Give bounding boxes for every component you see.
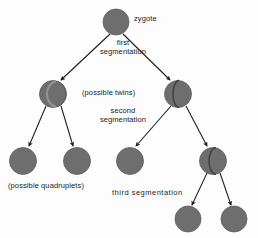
label-possible-quadruplets: (possible quadruplets) — [8, 182, 84, 191]
label-third-segmentation: third segmentation — [112, 189, 183, 198]
label-first-segmentation-line2: segmentation — [86, 48, 160, 57]
cell-quad-2 — [64, 148, 91, 175]
label-zygote: zygote — [134, 15, 157, 24]
label-second-segmentation-line2: segmentation — [86, 116, 160, 125]
cell-oct-2 — [221, 206, 247, 232]
cell-twin-left — [40, 81, 67, 108]
cell-quad-3 — [117, 148, 144, 175]
label-first-segmentation: first segmentation — [86, 39, 160, 57]
edge-twin-left-to-quad-1 — [29, 106, 46, 146]
cell-quad-4 — [200, 148, 227, 175]
cell-quad-1 — [10, 148, 37, 175]
zygote-segmentation-diagram: zygote first segmentation (possible twin… — [0, 0, 258, 238]
edge-twin-left-to-quad-2 — [61, 106, 73, 146]
label-possible-twins: (possible twins) — [82, 89, 135, 98]
edge-quad-4-to-oct-1 — [192, 173, 207, 205]
label-second-segmentation: second segmentation — [86, 107, 160, 125]
edge-twin-right-to-quad-4 — [186, 106, 207, 146]
cell-twin-right — [165, 81, 192, 108]
edge-quad-4-to-oct-2 — [220, 173, 231, 205]
cell-oct-1 — [175, 206, 201, 232]
cell-zygote — [103, 9, 129, 35]
